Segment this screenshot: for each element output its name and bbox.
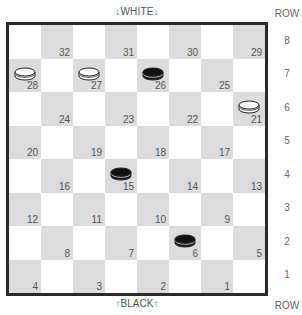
black-checker-icon[interactable] xyxy=(174,234,196,248)
light-square xyxy=(105,126,137,160)
square-number: 11 xyxy=(92,214,102,225)
black-checker-icon[interactable] xyxy=(142,67,164,81)
square-15[interactable]: 15 xyxy=(105,159,137,193)
square-2[interactable]: 2 xyxy=(137,260,169,294)
square-28[interactable]: 28 xyxy=(9,59,41,93)
square-8[interactable]: 8 xyxy=(41,226,73,260)
square-12[interactable]: 12 xyxy=(9,193,41,227)
square-7[interactable]: 7 xyxy=(105,226,137,260)
row-number-8: 8 xyxy=(272,35,302,46)
light-square xyxy=(201,25,233,59)
row-header-bottom: ROW xyxy=(272,300,302,311)
light-square xyxy=(73,159,105,193)
square-number: 2 xyxy=(160,281,166,292)
square-number: 23 xyxy=(123,114,134,125)
light-square xyxy=(105,193,137,227)
square-18[interactable]: 18 xyxy=(137,126,169,160)
light-square xyxy=(9,25,41,59)
square-31[interactable]: 31 xyxy=(105,25,137,59)
square-number: 8 xyxy=(64,248,70,259)
light-square xyxy=(201,226,233,260)
square-number: 10 xyxy=(155,214,166,225)
light-square xyxy=(169,126,201,160)
square-number: 14 xyxy=(187,181,198,192)
white-checker-icon[interactable] xyxy=(78,67,100,81)
row-number-7: 7 xyxy=(272,68,302,79)
square-number: 30 xyxy=(187,47,198,58)
square-number: 25 xyxy=(219,80,230,91)
white-checker-icon[interactable] xyxy=(14,67,36,81)
square-21[interactable]: 21 xyxy=(233,92,265,126)
square-22[interactable]: 22 xyxy=(169,92,201,126)
square-number: 18 xyxy=(155,147,166,158)
light-square xyxy=(41,59,73,93)
light-square xyxy=(169,260,201,294)
square-number: 17 xyxy=(219,147,230,158)
light-square xyxy=(137,226,169,260)
light-square xyxy=(41,193,73,227)
square-5[interactable]: 5 xyxy=(233,226,265,260)
square-1[interactable]: 1 xyxy=(201,260,233,294)
row-header-top: ROW xyxy=(272,8,302,19)
square-number: 12 xyxy=(27,214,38,225)
light-square xyxy=(105,260,137,294)
square-26[interactable]: 26 xyxy=(137,59,169,93)
square-number: 29 xyxy=(251,47,262,58)
square-11[interactable]: 11 xyxy=(73,193,105,227)
square-number: 31 xyxy=(123,47,134,58)
square-number: 26 xyxy=(155,80,166,91)
row-number-5: 5 xyxy=(272,135,302,146)
light-square xyxy=(41,126,73,160)
square-10[interactable]: 10 xyxy=(137,193,169,227)
row-number-4: 4 xyxy=(272,169,302,180)
square-3[interactable]: 3 xyxy=(73,260,105,294)
square-23[interactable]: 23 xyxy=(105,92,137,126)
square-6[interactable]: 6 xyxy=(169,226,201,260)
light-square xyxy=(73,92,105,126)
square-number: 32 xyxy=(59,47,70,58)
light-square xyxy=(201,159,233,193)
checkers-board: 3231302928272625242322212019181716151413… xyxy=(6,22,268,296)
square-13[interactable]: 13 xyxy=(233,159,265,193)
light-square xyxy=(137,159,169,193)
square-17[interactable]: 17 xyxy=(201,126,233,160)
light-square xyxy=(105,59,137,93)
light-square xyxy=(73,25,105,59)
square-number: 19 xyxy=(91,147,102,158)
square-29[interactable]: 29 xyxy=(233,25,265,59)
light-square xyxy=(233,260,265,294)
light-square xyxy=(201,92,233,126)
square-number: 6 xyxy=(192,248,198,259)
square-number: 5 xyxy=(256,248,262,259)
square-25[interactable]: 25 xyxy=(201,59,233,93)
square-number: 13 xyxy=(251,181,262,192)
square-19[interactable]: 19 xyxy=(73,126,105,160)
square-14[interactable]: 14 xyxy=(169,159,201,193)
square-32[interactable]: 32 xyxy=(41,25,73,59)
square-16[interactable]: 16 xyxy=(41,159,73,193)
square-number: 1 xyxy=(224,281,230,292)
square-20[interactable]: 20 xyxy=(9,126,41,160)
light-square xyxy=(9,226,41,260)
light-square xyxy=(169,193,201,227)
square-24[interactable]: 24 xyxy=(41,92,73,126)
square-27[interactable]: 27 xyxy=(73,59,105,93)
white-checker-icon[interactable] xyxy=(238,100,260,114)
light-square xyxy=(9,159,41,193)
light-square xyxy=(233,126,265,160)
square-number: 27 xyxy=(91,80,102,91)
square-number: 15 xyxy=(123,181,134,192)
square-4[interactable]: 4 xyxy=(9,260,41,294)
square-number: 20 xyxy=(27,147,38,158)
light-square xyxy=(137,92,169,126)
row-number-2: 2 xyxy=(272,236,302,247)
square-number: 21 xyxy=(251,114,262,125)
row-number-1: 1 xyxy=(272,269,302,280)
light-square xyxy=(169,59,201,93)
white-side-label: ↓WHITE↓ xyxy=(6,6,268,17)
light-square xyxy=(137,25,169,59)
square-30[interactable]: 30 xyxy=(169,25,201,59)
square-9[interactable]: 9 xyxy=(201,193,233,227)
square-number: 24 xyxy=(59,114,70,125)
black-checker-icon[interactable] xyxy=(110,167,132,181)
